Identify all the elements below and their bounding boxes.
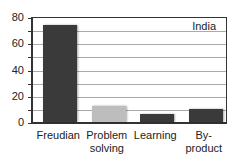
bar-freudian [43, 25, 77, 122]
y-axis-tick [28, 18, 32, 19]
bar-learning [140, 114, 174, 122]
y-axis-label: 60 [0, 37, 24, 49]
y-axis-label: 80 [0, 11, 24, 23]
y-axis-label: 40 [0, 64, 24, 76]
y-axis-label: 0 [0, 116, 24, 128]
bar-chart: India 020406080FreudianProblemsolvingLea… [0, 0, 238, 160]
x-axis-label: Problemsolving [81, 129, 133, 155]
y-axis-tick [28, 71, 32, 72]
y-axis-tick [28, 123, 32, 124]
bar-problem-solving [92, 106, 126, 122]
y-axis-label: 20 [0, 90, 24, 102]
plot-area: India [31, 17, 227, 124]
y-axis-tick [28, 31, 32, 32]
x-axis-label: By-product [178, 129, 230, 155]
y-axis-tick [28, 84, 32, 85]
y-axis-tick [28, 110, 32, 111]
bar-by-product [189, 109, 223, 122]
y-axis-tick [28, 57, 32, 58]
x-axis-label: Freudian [32, 129, 84, 142]
x-axis-label: Learning [129, 129, 181, 142]
y-axis-tick [28, 44, 32, 45]
y-axis-tick [28, 97, 32, 98]
